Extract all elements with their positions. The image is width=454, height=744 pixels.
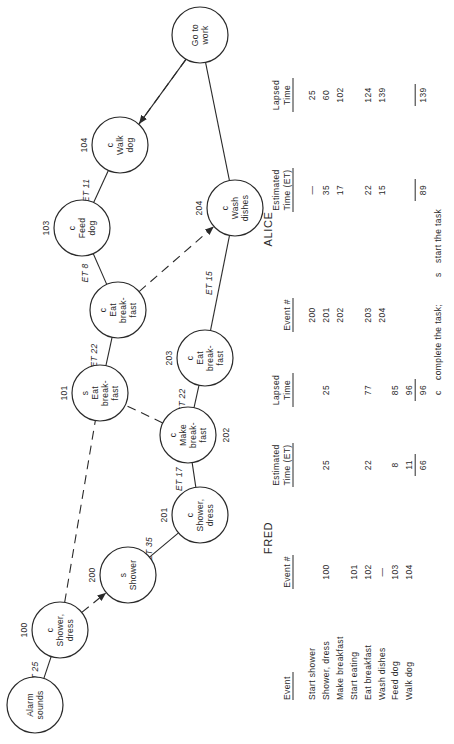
alice-row-lapsed: 25 — [307, 90, 317, 100]
node-event-number: 100 — [19, 622, 29, 637]
node-label-line: dress — [205, 504, 215, 526]
legend-c-text: complete the task; — [433, 304, 443, 380]
alice-row-event: 202 — [335, 307, 345, 322]
edge-et-label: ET 15 — [204, 271, 214, 295]
node-status: c — [168, 432, 178, 437]
node-n100: cShower,dress100 — [19, 602, 88, 658]
event-column-header: Event — [282, 676, 292, 700]
fred-row-event: — — [377, 567, 387, 576]
alice-lapsed-header: Time — [282, 85, 292, 105]
alice-row-event: 204 — [377, 307, 387, 322]
node-label-line: dress — [65, 619, 75, 641]
node-label-line: dog — [87, 220, 97, 235]
fred-row-event: 103 — [390, 564, 400, 579]
event-row-label: Feed dog — [390, 661, 400, 700]
node-label-line: Make — [178, 424, 188, 446]
node-label-line: break- — [118, 297, 128, 323]
fred-lapsed-header: Lapsed — [271, 375, 281, 405]
edge-n100-to-n200 — [82, 593, 106, 612]
node-label-line: Walk — [115, 135, 125, 155]
node-n202: cMakebreak-fast202 — [160, 407, 231, 463]
node-label-line: Wash — [230, 197, 240, 220]
node-label-line: Shower — [128, 560, 138, 591]
fred-row-et: 8 — [390, 462, 400, 467]
node-event-number: 200 — [87, 567, 97, 582]
node-event-number: 204 — [194, 200, 204, 215]
alice-et-header: Time (ET) — [282, 169, 292, 210]
event-row-label: Shower, dress — [321, 641, 331, 700]
node-label-line: Go to — [190, 24, 200, 46]
alice-et-total: 89 — [418, 185, 428, 195]
alice-row-event: 201 — [321, 307, 331, 322]
node-label-line: Shower, — [55, 614, 65, 647]
node-label-line: sounds — [35, 690, 45, 719]
node-label-line: fast — [128, 302, 138, 317]
fred-et-header: Estimated — [271, 444, 281, 485]
fred-row-et: 11 — [404, 460, 414, 470]
edge-et-label: ET 17 — [174, 467, 184, 491]
fred-title: FRED — [262, 522, 274, 554]
node-n201: cShower,dress201 — [159, 487, 228, 543]
node-label-line: Shower, — [195, 499, 205, 532]
tables-layer: EventStart showerShower, dressMake break… — [262, 78, 443, 700]
alice-et-header: Estimated — [271, 169, 281, 210]
node-n203: cEatbreak-fast203 — [164, 330, 233, 386]
edge-n103-to-n104 — [94, 170, 109, 202]
event-row-label: Wash dishes — [377, 647, 387, 700]
edge-n101-to-n102 — [106, 337, 112, 365]
node-label-line: Eat — [195, 351, 205, 365]
fred-row-lapsed: 25 — [321, 385, 331, 395]
node-status: c — [185, 512, 195, 517]
node-label-line: dishes — [240, 195, 250, 221]
event-row-label: Start shower — [307, 647, 317, 700]
legend-c-key: c — [433, 390, 443, 395]
edge-n201-to-n202 — [192, 463, 196, 488]
alice-row-et: 15 — [377, 185, 387, 195]
fred-row-event: 100 — [321, 564, 331, 579]
fred-row-et: 25 — [321, 460, 331, 470]
node-status: c — [185, 355, 195, 360]
node-n200: sShower200 — [87, 547, 156, 603]
fred-lapsed-total: 96 — [418, 385, 428, 395]
fred-et-total: 66 — [418, 460, 428, 470]
node-event-number: 201 — [159, 507, 169, 522]
node-label-line: Eat — [90, 386, 100, 400]
edge-et-label: ET 8 — [80, 263, 90, 282]
event-row-label: Make breakfast — [335, 636, 345, 700]
alice-event-number-header: Event # — [282, 299, 292, 331]
node-label-line: fast — [215, 350, 225, 365]
node-event-number: 103 — [41, 220, 51, 235]
node-event-number: 203 — [164, 350, 174, 365]
node-n204: cWashdishes204 — [194, 180, 263, 236]
event-row-label: Eat breakfast — [363, 644, 373, 700]
node-label-line: Feed — [77, 218, 87, 239]
node-event-number: 101 — [59, 385, 69, 400]
node-n104: cWalkdog104 — [79, 117, 148, 173]
edge-et-label: ET 22 — [89, 343, 99, 367]
node-n103: cFeeddog103 — [41, 200, 110, 256]
event-row-label: Start eating — [349, 652, 359, 700]
fred-row-event: 102 — [363, 564, 373, 579]
edge-et-label: ET 11 — [81, 179, 91, 203]
fred-row-event: 104 — [404, 564, 414, 579]
node-label-line: dog — [125, 137, 135, 152]
node-status: c — [98, 307, 108, 312]
edge-n202-to-n101 — [125, 405, 162, 423]
node-alarm: Alarmsounds — [7, 677, 63, 733]
alice-row-event: 203 — [363, 307, 373, 322]
alice-row-et: 22 — [363, 185, 373, 195]
node-label-line: break- — [188, 422, 198, 448]
legend-s-key: s — [433, 272, 443, 277]
alice-title: ALICE — [262, 212, 274, 247]
node-status: c — [67, 225, 77, 230]
node-status: c — [105, 142, 115, 147]
node-label-line: break- — [100, 380, 110, 406]
edge-alarm-to-n100 — [44, 657, 51, 679]
edge-n102-to-n204 — [139, 227, 213, 292]
edge-n102-to-n103 — [93, 254, 106, 285]
fred-row-lapsed: 77 — [363, 385, 373, 395]
node-n101: sEatbreak-fast101 — [59, 365, 128, 421]
fred-event-number-header: Event # — [282, 556, 292, 588]
node-status: c — [45, 627, 55, 632]
alice-row-lapsed: 124 — [363, 87, 373, 102]
